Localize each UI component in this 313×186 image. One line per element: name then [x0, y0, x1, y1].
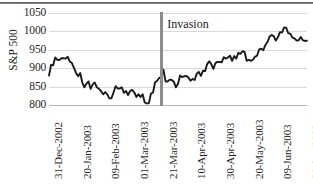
- y-tick-label-1000: 1000: [2, 25, 46, 37]
- top-border-rule: [0, 2, 313, 4]
- x-tick-label-09-Feb-2003: 09-Feb-2003: [110, 123, 121, 179]
- x-tick-label-20-May-2003: 20-May-2003: [254, 120, 265, 179]
- x-tick-label-31-Dec-2002: 31-Dec-2002: [53, 122, 64, 179]
- x-axis-tick-labels: 31-Dec-200220-Jan-200309-Feb-200301-Mar-…: [49, 107, 307, 186]
- x-tick-label-21-Mar-2003: 21-Mar-2003: [168, 122, 179, 179]
- chart-figure: S&P 500 80085090095010001050 Invasion 31…: [0, 0, 313, 186]
- invasion-marker-line: [160, 12, 163, 106]
- y-tick-label-850: 850: [2, 81, 46, 93]
- x-tick-label-20-Jan-2003: 20-Jan-2003: [82, 125, 93, 179]
- y-tick-label-950: 950: [2, 44, 46, 56]
- x-tick-label-29-Jun-2003: 29-Jun-2003: [311, 124, 313, 179]
- y-axis-tick-labels: 80085090095010001050: [0, 0, 46, 186]
- x-tick-label-09-Jun-2003: 09-Jun-2003: [282, 124, 293, 179]
- y-tick-label-1050: 1050: [2, 7, 46, 19]
- x-tick-label-30-Apr-2003: 30-Apr-2003: [225, 123, 236, 179]
- y-tick-label-900: 900: [2, 62, 46, 74]
- invasion-marker-label: Invasion: [167, 18, 208, 30]
- y-tick-label-800: 800: [2, 99, 46, 111]
- x-tick-label-01-Mar-2003: 01-Mar-2003: [139, 122, 150, 179]
- x-axis-line: [49, 105, 307, 106]
- x-tick-label-10-Apr-2003: 10-Apr-2003: [196, 123, 207, 179]
